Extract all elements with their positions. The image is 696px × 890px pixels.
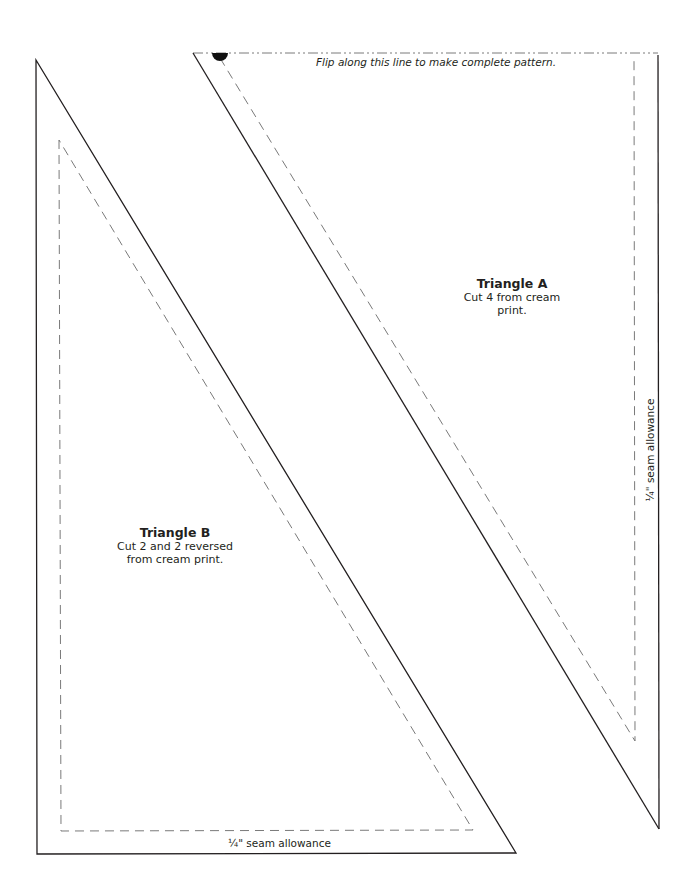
triangle-a-title: Triangle A (452, 276, 572, 291)
triangle-b-cut-line (36, 60, 516, 854)
triangle-b-instruction-line1: Cut 2 and 2 reversed (110, 540, 240, 553)
triangle-b-title: Triangle B (110, 525, 240, 540)
triangle-a-instruction: Cut 4 from cream print. (452, 291, 572, 317)
triangle-b-instruction-line2: from cream print. (110, 553, 240, 566)
fold-line-instruction: Flip along this line to make complete pa… (316, 56, 556, 68)
triangle-a-vertical-cut-line (658, 55, 659, 829)
pattern-drawing (0, 0, 696, 890)
triangle-b-label: Triangle B Cut 2 and 2 reversed from cre… (110, 525, 240, 566)
triangle-a-seam-line (220, 56, 635, 741)
triangle-a-diagonal-cut-line (193, 53, 659, 829)
triangle-b-seam-label: ¼" seam allowance (228, 837, 331, 849)
registration-dot-icon (212, 53, 228, 61)
triangle-a-label: Triangle A Cut 4 from cream print. (452, 276, 572, 317)
triangle-a-seam-label: ¼" seam allowance (644, 399, 656, 502)
triangle-b-seam-line (59, 140, 473, 831)
